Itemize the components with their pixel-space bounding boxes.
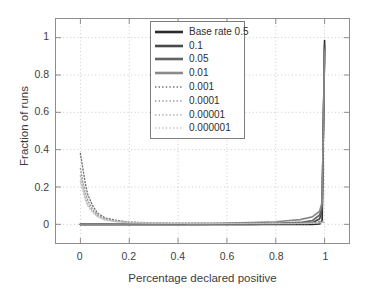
y-tick-label: 0 [19, 218, 49, 230]
legend-item: 0.05 [154, 53, 240, 67]
legend-label: 0.05 [189, 53, 208, 65]
legend-line-icon [154, 109, 184, 121]
legend: Base rate 0.50.10.050.010.0010.00010.000… [150, 21, 245, 139]
legend-label: 0.000001 [189, 122, 231, 134]
legend-item: 0.01 [154, 66, 240, 80]
chart-figure: 00.20.40.60.81 00.20.40.60.81 Percentage… [0, 0, 370, 300]
legend-line-icon [154, 26, 184, 38]
legend-line-icon [154, 81, 184, 93]
legend-item: 0.001 [154, 80, 240, 94]
legend-label: 0.00001 [189, 109, 225, 121]
series-line [80, 176, 324, 224]
legend-line-icon [154, 122, 184, 134]
legend-line-icon [154, 40, 184, 52]
x-tick-label: 0.8 [259, 250, 293, 262]
x-tick-label: 0.6 [210, 250, 244, 262]
series-line [80, 181, 324, 223]
y-tick-label: 1 [19, 30, 49, 42]
legend-line-icon [154, 95, 184, 107]
x-tick-label: 0 [63, 250, 97, 262]
legend-label: Base rate 0.5 [189, 26, 248, 38]
legend-label: 0.001 [189, 81, 214, 93]
x-axis-title: Percentage declared positive [55, 272, 350, 284]
series-line [80, 168, 324, 223]
legend-line-icon [154, 67, 184, 79]
x-tick-label: 1 [308, 250, 342, 262]
legend-label: 0.0001 [189, 95, 220, 107]
legend-item: Base rate 0.5 [154, 25, 240, 39]
y-axis-title: Fraction of runs [18, 56, 30, 196]
x-tick-label: 0.2 [112, 250, 146, 262]
series-line [80, 153, 324, 223]
legend-label: 0.1 [189, 40, 203, 52]
x-tick-label: 0.4 [161, 250, 195, 262]
legend-item: 0.000001 [154, 122, 240, 136]
legend-label: 0.01 [189, 67, 208, 79]
legend-item: 0.1 [154, 39, 240, 53]
legend-item: 0.00001 [154, 108, 240, 122]
legend-line-icon [154, 53, 184, 65]
legend-item: 0.0001 [154, 94, 240, 108]
